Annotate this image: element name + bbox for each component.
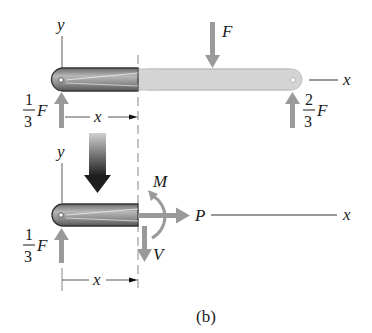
figure-caption: (b) — [196, 307, 216, 326]
left-reaction-numerator: 1 — [25, 91, 33, 108]
shear-force-label: V — [153, 245, 166, 264]
left-reaction-symbol: F — [36, 101, 48, 120]
bottom-left-reaction-numerator: 1 — [25, 226, 33, 243]
bottom-left-reaction-denominator: 3 — [24, 248, 32, 265]
bottom-y-axis-label: y — [55, 142, 65, 161]
pin-icon — [59, 213, 64, 218]
right-reaction-arrow-icon — [285, 92, 300, 128]
beam-removed-segment — [138, 69, 302, 90]
top-dimension-label: x — [93, 107, 102, 126]
bottom-x-axis-label: x — [342, 205, 351, 224]
bottom-dimension-label: x — [92, 270, 101, 289]
right-reaction-symbol: F — [316, 101, 328, 120]
moment-label: M — [152, 172, 168, 191]
applied-force-label: F — [221, 22, 233, 41]
right-reaction-numerator: 2 — [305, 91, 313, 108]
top-y-axis-label: y — [55, 15, 65, 34]
right-reaction-denominator: 3 — [304, 113, 312, 130]
right-pin-icon — [291, 78, 296, 83]
shear-force-arrow-icon — [137, 226, 152, 262]
applied-force-arrow-icon — [205, 22, 220, 68]
bottom-diagram: y 1 3 F P M — [23, 142, 351, 291]
bottom-left-reaction-arrow-icon — [54, 228, 69, 263]
free-body-diagram: y F 1 3 F — [0, 0, 372, 333]
left-reaction-arrow-icon — [54, 92, 69, 128]
transition-arrow-icon — [84, 133, 111, 193]
normal-force-label: P — [194, 206, 205, 225]
top-x-axis-label: x — [342, 70, 351, 89]
bottom-dimension-arrowhead-icon — [129, 278, 138, 283]
bottom-left-reaction-symbol: F — [36, 236, 48, 255]
top-diagram: y F 1 3 F — [23, 15, 351, 290]
dimension-arrowhead-icon — [129, 115, 138, 120]
left-pin-icon — [59, 78, 64, 83]
beam-segment — [52, 204, 138, 226]
left-reaction-denominator: 3 — [24, 113, 32, 130]
beam-kept-segment — [52, 68, 139, 91]
